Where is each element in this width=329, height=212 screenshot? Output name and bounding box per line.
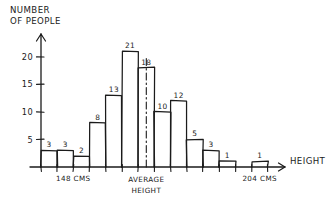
lower-bin-label: 148 CMS — [56, 174, 91, 183]
histogram-bar — [122, 51, 139, 167]
bar-value-label: 12 — [174, 91, 184, 100]
histogram-bar — [106, 95, 122, 167]
bar-value-label: 10 — [157, 102, 167, 111]
bar-value-label: 8 — [95, 113, 100, 122]
bar-value-label: 3 — [63, 140, 68, 149]
histogram-bar — [41, 150, 57, 167]
histogram-bar — [73, 156, 90, 167]
bar-value-label: 3 — [47, 140, 52, 149]
histogram-bar — [89, 122, 105, 167]
y-axis-tick-label: 20 — [22, 52, 33, 62]
bar-value-label: 2 — [79, 146, 84, 155]
x-axis-title: HEIGHT — [290, 156, 326, 166]
y-axis-tick-label: 15 — [22, 79, 33, 89]
bar-value-label: 3 — [209, 140, 214, 149]
histogram-bar — [203, 150, 219, 167]
histogram-canvas: NUMBER OF PEOPLE 5101520 332813211810125… — [0, 0, 329, 212]
histogram-bars — [41, 51, 269, 167]
histogram-bar — [170, 100, 186, 167]
x-axis-category-labels: 148 CMS AVERAGE HEIGHT 204 CMS — [56, 174, 277, 195]
histogram-bar — [186, 139, 203, 167]
histogram-bar — [154, 111, 171, 167]
histogram-figure: NUMBER OF PEOPLE 5101520 332813211810125… — [0, 0, 329, 212]
bar-value-label: 5 — [192, 129, 197, 138]
y-axis-tick-label: 5 — [27, 135, 33, 145]
y-axis-title-line1: NUMBER — [10, 5, 50, 15]
y-axis-tick-label: 10 — [22, 107, 33, 117]
y-axis-title: NUMBER OF PEOPLE — [10, 5, 61, 26]
y-axis-title-line2: OF PEOPLE — [10, 16, 61, 26]
bar-value-label: 1 — [257, 151, 262, 160]
bar-value-label: 1 — [225, 151, 230, 160]
histogram-bar — [219, 161, 236, 167]
histogram-bar — [252, 161, 269, 167]
average-height-label-line2: HEIGHT — [131, 186, 161, 195]
bar-value-label: 13 — [109, 85, 119, 94]
histogram-bar — [57, 150, 73, 167]
average-height-label-line1: AVERAGE — [128, 175, 164, 184]
upper-bin-label: 204 CMS — [242, 174, 277, 183]
bar-value-label: 21 — [125, 41, 135, 50]
